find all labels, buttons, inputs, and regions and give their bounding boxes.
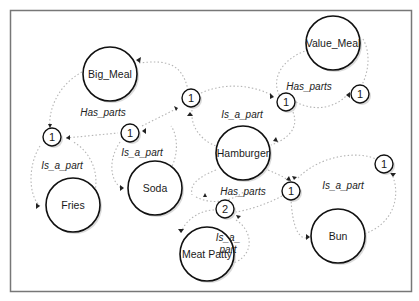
cardinality-fries[interactable]: 1	[43, 128, 63, 148]
arrow-icon	[178, 229, 184, 233]
edge-bigmeal-to-fries-card	[50, 72, 82, 128]
edge-bigmeal-to-center-card	[139, 62, 188, 90]
arrow-icon	[270, 93, 274, 99]
edge-bun-left-card-to-patty-card	[236, 196, 282, 212]
edge-label-soda-is-a-part: Is_a_part	[121, 147, 164, 158]
arrow-icon	[120, 185, 124, 191]
edge-bun-cards-top-arc	[298, 155, 378, 178]
edge-label-big-meal-has-parts: Has_parts	[80, 107, 126, 118]
arrow-icon	[236, 215, 241, 219]
edge-label-patty-is-a-part-1: Is_a_	[216, 232, 240, 243]
arrow-icon	[390, 173, 396, 177]
arrow-icon	[142, 128, 146, 134]
cardinality-bun-left[interactable]: 1	[282, 182, 302, 202]
cardinality-soda[interactable]: 1	[121, 124, 141, 144]
arrow-icon	[203, 193, 207, 197]
node-label: Value_Meal	[306, 37, 361, 49]
arrow-icon	[346, 92, 350, 98]
node-label: Big_Meal	[88, 68, 132, 80]
node-value-meal[interactable]: Value_Meal	[306, 16, 362, 72]
node-fries[interactable]: Fries	[46, 178, 102, 234]
edge-bun-to-bun-right-card	[361, 177, 396, 235]
cardinality-value-left[interactable]: 1	[277, 93, 297, 113]
edge-label-bun-is-a-part: Is_a_part	[322, 180, 365, 191]
cardinality-patty[interactable]: 2	[216, 200, 236, 220]
node-label: Fries	[61, 199, 84, 211]
cardinality-value-right[interactable]: 1	[351, 85, 371, 105]
semantic-network-diagram: Big_Meal Value_Meal Hamburger Fries Soda…	[0, 0, 419, 301]
edge-center-card-to-hamburger	[192, 110, 216, 146]
arrow-icon	[273, 137, 278, 142]
edge-soda-card-to-soda	[112, 142, 121, 188]
node-label: Soda	[143, 182, 168, 194]
arrow-icon	[306, 234, 310, 240]
edge-label-hamburger-has-parts: Has_parts	[220, 186, 266, 197]
edge-hamburger-to-soda	[192, 170, 216, 195]
edge-center-card-to-value-left-card	[201, 86, 273, 96]
cardinality-label: 1	[381, 158, 387, 170]
arrow-icon	[292, 176, 297, 180]
node-bun[interactable]: Bun	[311, 209, 367, 265]
arrow-icon	[286, 176, 291, 181]
edge-hamburger-to-bun-left-card	[268, 170, 290, 182]
cardinality-label: 1	[283, 96, 289, 108]
arrow-icon	[36, 203, 40, 209]
cardinality-bun-right[interactable]: 1	[375, 155, 395, 175]
edge-label-patty-is-a-part-2: part	[218, 244, 237, 255]
cardinality-label: 1	[188, 92, 194, 104]
arrow-icon	[136, 57, 141, 63]
node-soda[interactable]: Soda	[128, 161, 184, 217]
cardinality-label: 2	[222, 203, 228, 215]
cardinality-label: 1	[49, 131, 55, 143]
cardinality-center[interactable]: 1	[182, 89, 202, 109]
node-hamburger[interactable]: Hamburger	[216, 126, 272, 182]
node-big-meal[interactable]: Big_Meal	[83, 47, 139, 103]
cardinality-label: 1	[127, 127, 133, 139]
node-label: Bun	[329, 230, 348, 242]
edge-fries-card-to-fries	[31, 146, 40, 206]
arrow-icon	[174, 106, 178, 111]
edge-bun-left-card-to-bun	[291, 198, 306, 238]
edge-soda-card-to-center-card	[142, 108, 178, 126]
cardinality-label: 1	[357, 88, 363, 100]
edge-label-value-meal-has-parts: Has_parts	[286, 81, 332, 92]
edge-value-cards-bottom	[296, 95, 347, 108]
edge-label-hamburger-is-a-part: Is_a_part	[221, 109, 264, 120]
node-label: Hamburger	[217, 147, 270, 159]
edge-label-fries-is-a-part: Is_a_part	[41, 160, 84, 171]
cardinality-label: 1	[288, 185, 294, 197]
edge-soda-card-to-fries-card	[66, 133, 118, 138]
